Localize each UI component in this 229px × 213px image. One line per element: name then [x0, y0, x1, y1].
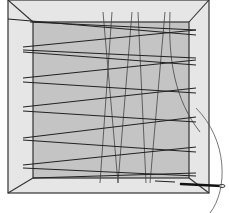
needle-eye: [219, 185, 225, 188]
weaving-frame-diagram: [0, 0, 229, 213]
